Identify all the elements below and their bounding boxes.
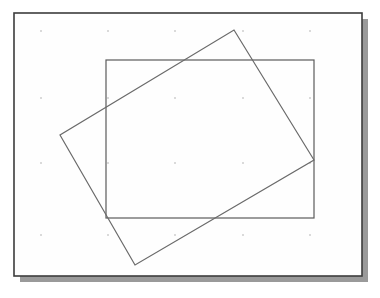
figure-root bbox=[0, 0, 380, 298]
figure-canvas bbox=[0, 0, 380, 298]
figure-panel bbox=[14, 13, 362, 276]
